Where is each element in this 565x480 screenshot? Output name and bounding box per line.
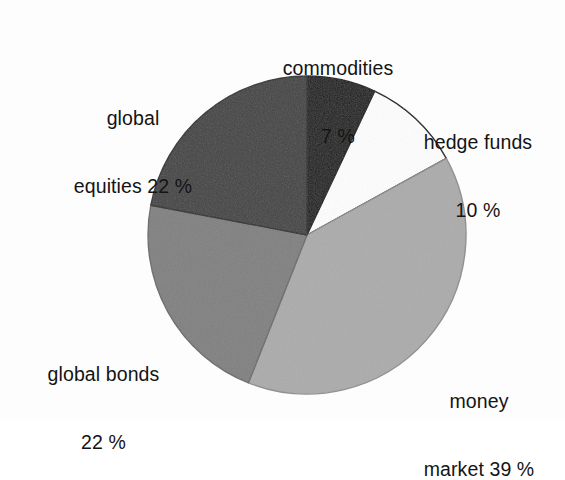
pie-label-hedge-funds-value: 10 %: [398, 199, 558, 222]
pie-label-global-equities-name: global: [38, 107, 228, 130]
pie-label-global-bonds-name: global bonds: [16, 363, 191, 386]
pie-label-money-market-name: money: [398, 390, 560, 413]
pie-label-global-equities: global equities 22 %: [38, 62, 228, 243]
pie-label-money-market: money market 39 %: [398, 345, 560, 480]
pie-label-hedge-funds: hedge funds 10 %: [398, 86, 558, 267]
pie-label-global-bonds-value: 22 %: [16, 431, 191, 454]
pie-label-commodities-name: commodities: [248, 57, 428, 80]
pie-label-hedge-funds-name: hedge funds: [398, 131, 558, 154]
pie-label-money-market-value: market 39 %: [398, 458, 560, 480]
pie-label-global-bonds: global bonds 22 %: [16, 318, 191, 480]
pie-label-global-equities-value: equities 22 %: [38, 175, 228, 198]
